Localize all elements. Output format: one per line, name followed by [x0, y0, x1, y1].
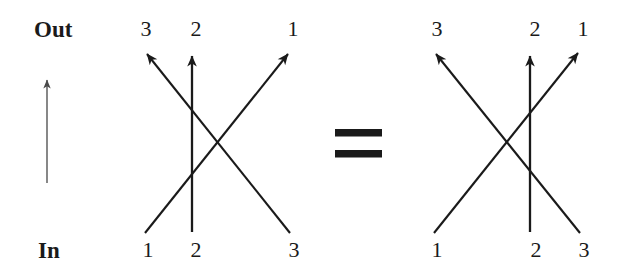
figure-canvas: Out In 3 2 1 1 2 3 3 2 1 1 2 3: [0, 0, 620, 271]
in-axis-label: In: [38, 239, 60, 262]
diagram-svg: [0, 0, 620, 271]
right-in-label-1: 2: [531, 239, 542, 261]
left-in-label-0: 1: [143, 239, 154, 261]
left-diagram-wires: [145, 54, 290, 233]
equals-sign-icon: [335, 129, 382, 158]
out-axis-label: Out: [34, 18, 72, 41]
left-out-label-2: 1: [288, 18, 299, 40]
right-out-label-1: 2: [530, 18, 541, 40]
left-wire-1: [145, 54, 288, 233]
right-wire-3: [436, 54, 580, 233]
left-in-label-1: 2: [191, 239, 202, 261]
right-in-label-2: 3: [579, 239, 590, 261]
right-in-label-0: 1: [432, 239, 443, 261]
right-out-label-2: 1: [578, 18, 589, 40]
left-wire-3: [147, 54, 290, 233]
right-diagram-wires: [434, 53, 580, 233]
left-in-label-2: 3: [289, 239, 300, 261]
right-out-label-0: 3: [432, 18, 443, 40]
left-out-label-0: 3: [141, 18, 152, 40]
left-out-label-1: 2: [191, 18, 202, 40]
